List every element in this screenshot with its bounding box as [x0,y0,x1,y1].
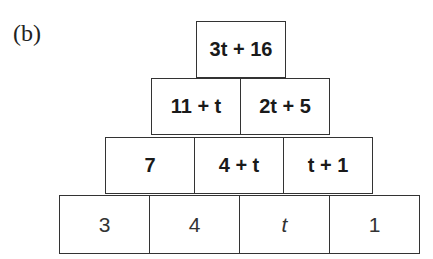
pyramid-row-3: 7 4 + t t + 1 [105,137,373,195]
pyramid-row-top: 3t + 16 [196,21,286,79]
pyramid-cell: 4 + t [194,137,284,194]
pyramid-row-base: 3 4 t 1 [59,195,420,253]
pyramid-cell: 3t + 16 [196,21,286,78]
pyramid-cell: t [239,195,330,254]
pyramid-row-2: 11 + t 2t + 5 [151,78,330,136]
pyramid-cell: 11 + t [151,78,241,135]
pyramid-cell: 3 [59,195,150,254]
pyramid-cell: 2t + 5 [240,78,330,135]
pyramid-cell: 1 [329,195,420,254]
pyramid-cell: t + 1 [283,137,373,194]
pyramid-cell: 7 [105,137,195,194]
pyramid-cell: 4 [149,195,240,254]
part-label: (b) [13,20,41,47]
